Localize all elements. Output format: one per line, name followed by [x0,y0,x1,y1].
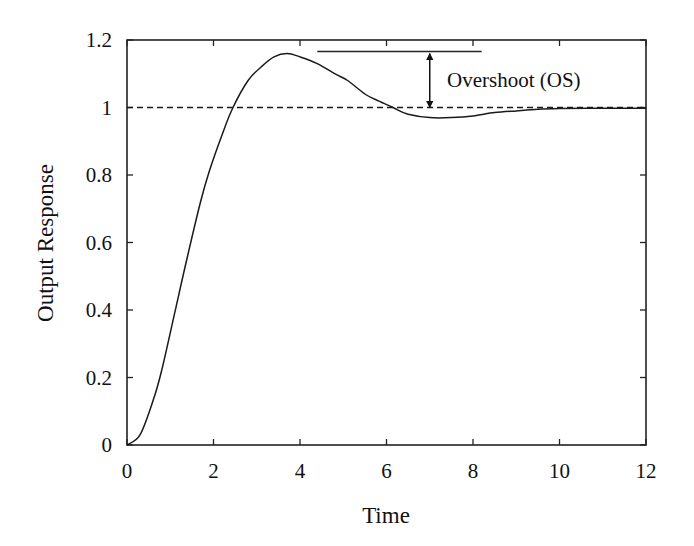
x-tick-label: 2 [208,459,219,483]
x-tick-label: 0 [122,459,133,483]
x-tick-label: 4 [295,459,306,483]
data-series [127,54,646,446]
axis-ticks [127,40,646,445]
x-tick-label: 10 [549,459,570,483]
y-tick-label: 0.8 [86,163,112,187]
step-response-chart: 02468101200.20.40.60.811.2 Time Output R… [0,0,694,546]
x-tick-label: 12 [636,459,657,483]
tick-labels: 02468101200.20.40.60.811.2 [86,28,657,483]
response-curve [127,54,646,446]
y-tick-label: 0.2 [86,366,112,390]
x-axis-title: Time [362,503,410,528]
y-tick-label: 1 [102,96,113,120]
overshoot-label: Overshoot (OS) [447,68,581,92]
x-tick-label: 6 [381,459,392,483]
x-tick-label: 8 [468,459,479,483]
y-tick-label: 0.6 [86,231,112,255]
plot-border [127,40,646,445]
y-axis-title: Output Response [33,164,58,322]
y-tick-label: 1.2 [86,28,112,52]
y-tick-label: 0 [102,433,113,457]
y-tick-label: 0.4 [86,298,113,322]
plot-frame [127,40,646,445]
